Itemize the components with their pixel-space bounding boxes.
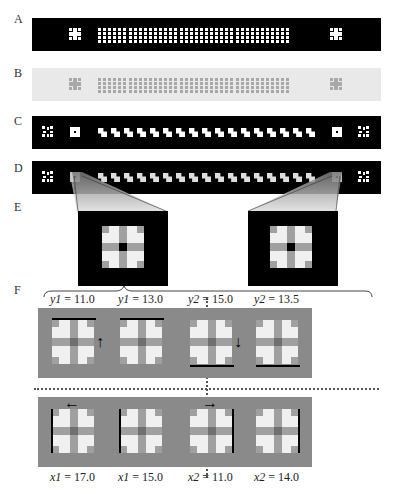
boundary-bar (190, 365, 234, 367)
top-panel-4 (242, 308, 312, 378)
bottom-caption-1: x1 = 17.0 (50, 470, 95, 485)
cross-pattern (52, 320, 94, 364)
arrow-up-icon: ↑ (96, 334, 104, 350)
bottom-panel-1: ← (38, 397, 108, 467)
top-caption-3: y2 = 15.0 (188, 292, 233, 307)
boundary-bar (51, 409, 53, 453)
top-panel-3: ↓ (176, 308, 246, 378)
boundary-bar (52, 318, 96, 320)
boundary-bar (256, 365, 300, 367)
bottom-panel-3: → (176, 397, 246, 467)
zoom-connector-graphic (0, 0, 398, 300)
zoom-pattern-left (102, 226, 144, 268)
top-panel-1: ↑ (38, 308, 108, 378)
bottom-caption-4: x2 = 14.0 (254, 470, 299, 485)
cross-pattern (120, 409, 162, 453)
cross-pattern (120, 320, 162, 364)
top-panel-2 (106, 308, 176, 378)
arrow-right-icon: → (202, 395, 218, 411)
arrow-down-icon: ↓ (234, 334, 242, 350)
horizontal-divider (34, 388, 379, 390)
zoom-pattern-right (270, 226, 312, 268)
cross-pattern (256, 320, 298, 364)
top-caption-2: y1 = 13.0 (118, 292, 163, 307)
boundary-bar (298, 409, 300, 453)
bottom-caption-3: x2 = 11.0 (188, 470, 233, 485)
zoom-panel-right (248, 211, 338, 286)
cross-pattern (256, 409, 298, 453)
bottom-caption-2: x1 = 15.0 (118, 470, 163, 485)
cross-pattern (190, 320, 232, 364)
bottom-panel-4 (242, 397, 312, 467)
zoom-panel-left (78, 211, 168, 286)
boundary-bar (120, 318, 164, 320)
boundary-bar (119, 409, 121, 453)
cross-pattern (52, 409, 94, 453)
arrow-left-icon: ← (64, 395, 80, 411)
top-caption-4: y2 = 13.5 (254, 292, 299, 307)
cross-pattern (190, 409, 232, 453)
boundary-bar (232, 409, 234, 453)
bottom-panel-2 (106, 397, 176, 467)
top-caption-1: y1 = 11.0 (50, 292, 95, 307)
